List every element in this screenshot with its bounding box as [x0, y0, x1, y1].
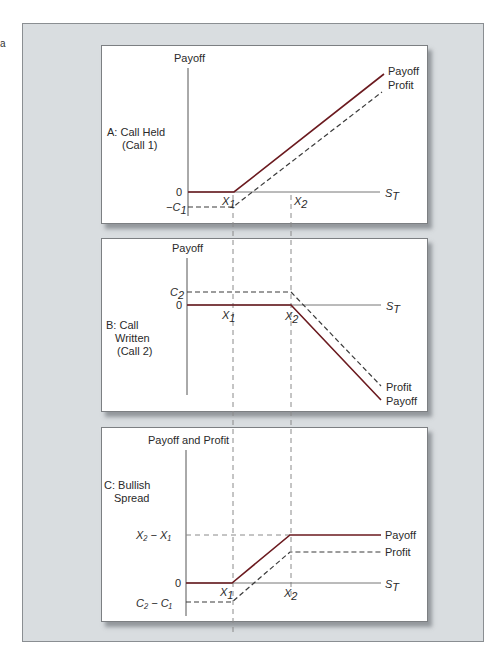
panel-c-y-tick-zero: 0 — [175, 577, 181, 589]
panel-c-title-1: C: Bullish — [104, 479, 150, 491]
strike-guides — [233, 195, 291, 632]
panel-a-payoff-label: Payoff — [388, 65, 420, 77]
panel-c-y-tick-x2-minus-x1: X₂ − X₁ — [135, 529, 171, 541]
panel-b-profit-label: Profit — [386, 381, 412, 393]
panel-b-y-label: Payoff — [172, 242, 204, 254]
panel-a-chart: Payoff A: Call Held (Call 1) ST 0 −C1 X1… — [107, 52, 420, 216]
panel-b-title-1: B: Call — [106, 319, 138, 331]
panel-b-profit-line — [187, 292, 381, 386]
panel-a-profit-line — [188, 92, 382, 207]
panel-b-payoff-line — [187, 305, 381, 400]
panel-b-y-tick-zero: 0 — [176, 299, 182, 311]
panel-c-x-label: ST — [385, 578, 400, 593]
panel-b-title-3: (Call 2) — [117, 345, 152, 357]
panel-b-payoff-label: Payoff — [386, 395, 418, 407]
panel-a-y-tick-neg-c1: −C1 — [166, 201, 187, 216]
panel-a-x-tick-x2: X2 — [293, 195, 307, 210]
panel-c-profit-label: Profit — [385, 546, 411, 558]
panel-c-x-tick-x1: X1 — [219, 586, 233, 601]
panel-a-y-tick-zero: 0 — [176, 186, 182, 198]
panel-c-y-tick-c2-minus-c1: C₂ − C₁ — [136, 597, 173, 609]
panel-a-payoff-line — [188, 74, 384, 192]
diagram-canvas: Payoff A: Call Held (Call 1) ST 0 −C1 X1… — [0, 0, 503, 662]
panel-a-y-label: Payoff — [174, 52, 206, 64]
panel-c-x-tick-x2: X2 — [283, 587, 297, 602]
panel-a-x-tick-x1: X1 — [221, 195, 235, 210]
panel-a-profit-label: Profit — [388, 79, 414, 91]
panel-b-chart: Payoff B: Call Written (Call 2) ST C2 0 … — [106, 242, 418, 407]
panel-b-x-label: ST — [386, 300, 401, 315]
panel-c-y-label: Payoff and Profit — [148, 434, 229, 446]
panel-c-payoff-line — [186, 535, 381, 583]
panel-b-title-2: Written — [115, 332, 150, 344]
panel-c-payoff-label: Payoff — [385, 529, 417, 541]
panel-a-title-2: (Call 1) — [122, 139, 157, 151]
panel-b-x-tick-x1: X1 — [221, 309, 235, 324]
panel-a-title-1: A: Call Held — [107, 126, 165, 138]
panel-a-x-label: ST — [385, 187, 400, 202]
panel-c-chart: Payoff and Profit C: Bullish Spread ST X… — [104, 434, 417, 616]
panel-c-title-2: Spread — [114, 492, 149, 504]
